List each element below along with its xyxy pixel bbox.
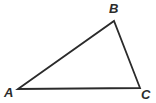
vertex-label-c: C xyxy=(141,88,150,101)
vertex-label-b: B xyxy=(109,2,118,15)
vertex-label-a: A xyxy=(4,86,13,99)
triangle-outline xyxy=(18,21,140,89)
triangle-svg xyxy=(0,0,156,103)
geometry-figure: A B C xyxy=(0,0,156,103)
